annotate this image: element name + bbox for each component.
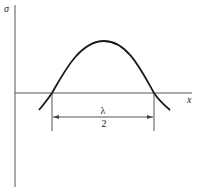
- dimension-denominator: 2: [102, 118, 107, 129]
- dimension-numerator: λ: [101, 105, 106, 116]
- arrowhead-right-icon: [147, 115, 153, 119]
- stress-wave-diagram: σ x λ 2: [0, 0, 204, 194]
- y-axis-label: σ: [4, 3, 10, 14]
- arrowhead-left-icon: [53, 115, 59, 119]
- x-axis-label: x: [186, 94, 192, 105]
- wave-curve: [39, 41, 170, 110]
